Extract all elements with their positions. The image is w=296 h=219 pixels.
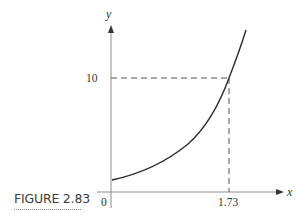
chart: y x 10 0 1.73 xyxy=(0,0,296,219)
figure: y x 10 0 1.73 FIGURE 2.83 xyxy=(0,0,296,219)
x-axis-arrow-icon xyxy=(276,189,284,195)
y-axis-arrow-icon xyxy=(108,25,114,33)
x-tick-label-1-73: 1.73 xyxy=(218,196,238,208)
x-tick-label-0: 0 xyxy=(101,196,107,208)
figure-caption: FIGURE 2.83 xyxy=(14,191,90,206)
exponential-curve xyxy=(112,30,246,180)
y-tick-label-10: 10 xyxy=(86,72,98,84)
x-axis-label: x xyxy=(286,185,293,199)
caption-underline xyxy=(14,209,81,210)
y-axis-label: y xyxy=(105,7,112,21)
